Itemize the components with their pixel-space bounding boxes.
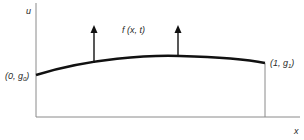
force-arrow-1	[91, 25, 98, 63]
arrowhead-icon	[175, 25, 182, 33]
right-boundary-label: (1, g1)	[270, 59, 294, 69]
left-boundary-label: (0, g0)	[5, 72, 29, 82]
u-axis-label: u	[26, 7, 31, 16]
diagram-canvas	[0, 0, 304, 140]
arrowhead-icon	[91, 25, 98, 33]
right-boundary-prefix: (1, g	[270, 58, 288, 68]
force-arrow-2	[175, 25, 182, 56]
x-axis-label: x	[294, 127, 299, 136]
left-boundary-prefix: (0, g	[5, 71, 23, 81]
string-curve	[36, 56, 265, 75]
left-boundary-suffix: )	[26, 71, 29, 81]
right-boundary-suffix: )	[291, 58, 294, 68]
force-label: f (x, t)	[122, 26, 145, 35]
